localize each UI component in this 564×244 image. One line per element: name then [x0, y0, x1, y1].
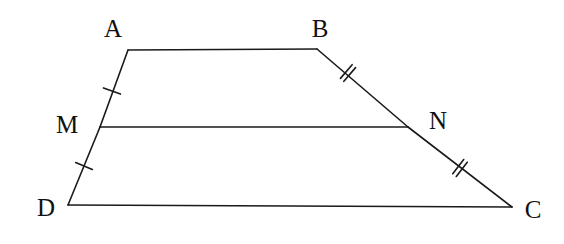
segment-ab — [128, 49, 317, 50]
tick-marks-group — [76, 65, 468, 177]
tick-mark-md-1 — [76, 163, 93, 170]
tick-mark-nc-1 — [453, 159, 464, 173]
segment-bn — [317, 49, 408, 127]
trapezoid-diagram — [0, 0, 564, 244]
vertex-label-m: M — [56, 112, 78, 137]
geometry-figure: A B M N D C — [0, 0, 564, 244]
segment-dc — [68, 205, 512, 207]
vertex-label-n: N — [429, 108, 447, 133]
vertex-label-c: C — [525, 197, 542, 222]
vertex-label-b: B — [312, 16, 329, 41]
tick-mark-nc-2 — [456, 162, 467, 176]
vertex-label-a: A — [104, 16, 122, 41]
segment-nc — [408, 127, 512, 207]
vertex-label-d: D — [37, 195, 55, 220]
